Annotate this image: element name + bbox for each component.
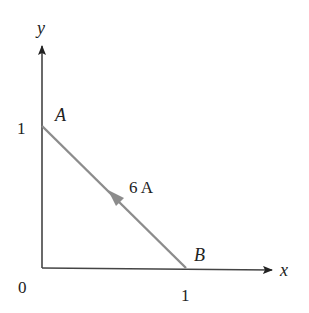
point-b-label: B	[194, 245, 205, 265]
y-axis-label: y	[35, 18, 45, 38]
y-tick-label: 1	[17, 119, 26, 138]
current-wire-diagram: y x 0 1 1 A B 6 A	[0, 0, 309, 313]
x-axis-label: x	[279, 260, 288, 280]
point-a-label: A	[54, 105, 67, 125]
x-axis	[42, 268, 272, 270]
origin-label: 0	[18, 278, 27, 297]
current-label: 6 A	[129, 178, 154, 197]
x-tick-label: 1	[181, 286, 190, 305]
